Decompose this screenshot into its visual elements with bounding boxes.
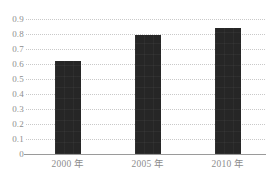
bar-2005[interactable] (135, 35, 161, 154)
y-tick-label: 0.6 (2, 60, 24, 69)
bars-layer (26, 19, 265, 154)
y-tick-label: 0 (2, 150, 24, 159)
bar-2010[interactable] (215, 28, 241, 154)
x-tick-label-2000: 2000 年 (33, 159, 103, 170)
y-tick-label: 0.4 (2, 90, 24, 99)
y-tick-label: 0.1 (2, 135, 24, 144)
y-tick-label: 0.7 (2, 45, 24, 54)
y-tick-label: 0.3 (2, 105, 24, 114)
x-tick-label-2005: 2005 年 (113, 159, 183, 170)
y-axis: 0.9 0.8 0.7 0.6 0.5 0.4 0.3 0.2 0.1 0 (0, 0, 24, 177)
y-tick-label: 0.5 (2, 75, 24, 84)
y-tick-label: 0.2 (2, 120, 24, 129)
bar-chart: 0.9 0.8 0.7 0.6 0.5 0.4 0.3 0.2 0.1 0 20… (0, 0, 278, 177)
bar-2000[interactable] (55, 61, 81, 154)
x-axis-line (24, 154, 266, 155)
x-tick-label-2010: 2010 年 (193, 159, 263, 170)
y-tick-label: 0.9 (2, 15, 24, 24)
y-tick-label: 0.8 (2, 30, 24, 39)
